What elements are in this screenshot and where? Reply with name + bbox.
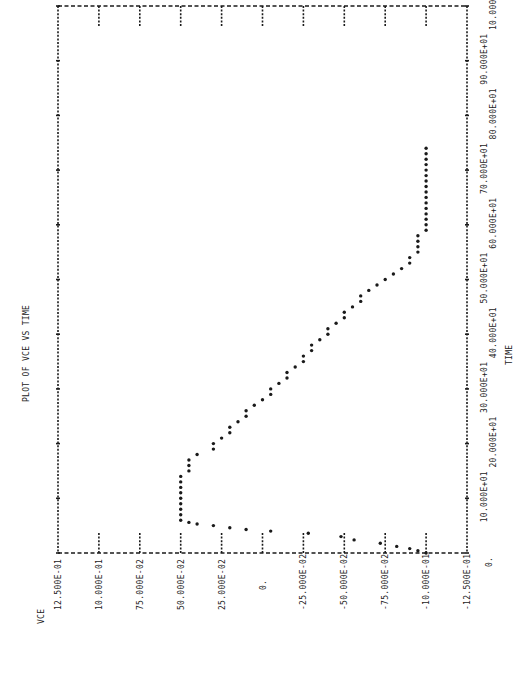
data-point — [261, 398, 264, 401]
vce-tick-label: -25.000E-02 — [299, 554, 308, 610]
data-point — [212, 442, 215, 445]
data-point — [187, 464, 190, 467]
data-point — [339, 535, 342, 538]
data-point — [424, 229, 427, 232]
data-point — [424, 147, 427, 150]
time-tick-label: 70.000E+01 — [480, 143, 489, 194]
data-point — [236, 420, 239, 423]
data-point — [187, 458, 190, 461]
data-point — [416, 245, 419, 248]
data-point — [351, 305, 354, 308]
data-point — [179, 475, 182, 478]
data-point — [326, 327, 329, 330]
data-point — [416, 250, 419, 253]
data-point — [244, 528, 247, 531]
data-point — [220, 436, 223, 439]
data-point — [326, 333, 329, 336]
time-tick-label: 90.000E+01 — [480, 34, 489, 85]
data-point — [195, 522, 198, 525]
data-point — [195, 453, 198, 456]
data-point — [302, 360, 305, 363]
data-point — [424, 179, 427, 182]
data-point — [384, 278, 387, 281]
data-point — [310, 349, 313, 352]
vce-tick-label: -50.000E-02 — [340, 554, 349, 610]
data-point — [179, 497, 182, 500]
data-point — [212, 447, 215, 450]
data-point — [359, 294, 362, 297]
data-point — [416, 240, 419, 243]
vce-tick-labels: 12.500E-0110.000E-0175.000E-0250.000E-02… — [54, 554, 472, 610]
vce-tick-label: 75.000E-02 — [136, 559, 145, 610]
data-point — [179, 508, 182, 511]
data-point — [179, 491, 182, 494]
chart-title: PLOT OF VCE VS TIME — [22, 305, 31, 402]
data-point — [424, 196, 427, 199]
time-tick-label: 60.000E+01 — [489, 198, 498, 249]
data-point — [359, 300, 362, 303]
data-point — [228, 431, 231, 434]
data-point — [302, 354, 305, 357]
data-point — [179, 486, 182, 489]
data-point — [424, 201, 427, 204]
data-point — [416, 234, 419, 237]
data-point — [343, 311, 346, 314]
vce-tick-label: 0. — [259, 580, 268, 590]
data-point — [408, 547, 411, 550]
data-point — [408, 256, 411, 259]
time-tick-label: 30.000E+01 — [480, 362, 489, 413]
data-point — [375, 283, 378, 286]
tick-marks — [56, 6, 469, 553]
data-point — [352, 538, 355, 541]
data-point — [424, 207, 427, 210]
data-point — [244, 415, 247, 418]
data-point — [212, 524, 215, 527]
data-point — [424, 174, 427, 177]
data-point — [187, 469, 190, 472]
time-tick-label: 40.000E+01 — [489, 307, 498, 358]
data-point — [179, 513, 182, 516]
data-point — [424, 190, 427, 193]
data-point — [424, 218, 427, 221]
data-point — [424, 152, 427, 155]
data-point — [187, 521, 190, 524]
data-point — [307, 532, 310, 535]
data-points — [179, 147, 428, 555]
time-tick-label: 80.000E+01 — [489, 88, 498, 139]
data-point — [285, 371, 288, 374]
data-point — [424, 212, 427, 215]
data-point — [379, 542, 382, 545]
data-point — [294, 365, 297, 368]
data-point — [343, 316, 346, 319]
vce-tick-label: 50.000E-02 — [177, 559, 186, 610]
data-point — [392, 272, 395, 275]
data-point — [269, 387, 272, 390]
data-point — [424, 163, 427, 166]
data-point — [228, 426, 231, 429]
data-point — [424, 185, 427, 188]
vce-vs-time-plot: 12.500E-0110.000E-0175.000E-0250.000E-02… — [0, 0, 514, 679]
data-point — [269, 393, 272, 396]
data-point — [244, 409, 247, 412]
data-point — [367, 289, 370, 292]
vce-tick-label: 10.000E-01 — [95, 559, 104, 610]
time-tick-label: 0. — [485, 557, 494, 567]
data-point — [400, 267, 403, 270]
data-point — [408, 261, 411, 264]
data-point — [424, 168, 427, 171]
data-point — [416, 549, 419, 552]
time-tick-label: 20.000E+01 — [489, 416, 498, 467]
vce-tick-label: -12.500E-01 — [463, 554, 472, 610]
time-axis-label: TIME — [505, 345, 514, 365]
plot-frame — [58, 6, 467, 553]
time-tick-label: 10.000E+01 — [480, 471, 489, 522]
data-point — [285, 376, 288, 379]
data-point — [269, 529, 272, 532]
data-point — [179, 502, 182, 505]
data-point — [395, 545, 398, 548]
data-point — [179, 519, 182, 522]
time-tick-label: 10.000E+02 — [489, 0, 498, 30]
data-point — [424, 223, 427, 226]
vce-tick-label: 25.000E-02 — [218, 559, 227, 610]
data-point — [334, 322, 337, 325]
